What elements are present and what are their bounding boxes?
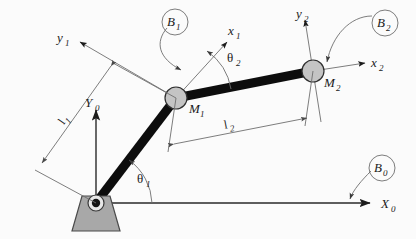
kinematic-diagram: X 0 Y 0 x 1 y 1 x 2 y 2 B 0 B 1 — [0, 0, 416, 239]
base-support — [72, 195, 120, 231]
label-l2: l 2 — [223, 116, 236, 135]
label-l1: l 1 — [55, 112, 74, 129]
diagram-canvas: X 0 Y 0 x 1 y 1 x 2 y 2 B 0 B 1 — [0, 0, 416, 239]
label-x2: x 2 — [370, 55, 384, 73]
b0-label-sub: 0 — [383, 168, 388, 178]
b2-label-sub: 2 — [386, 23, 391, 33]
b0-circle — [369, 155, 395, 181]
link-1-bar — [96, 98, 176, 203]
label-x0: X 0 — [380, 196, 396, 214]
label-theta1: θ 1 — [137, 171, 151, 189]
l1-ext-line-joint — [113, 63, 176, 98]
b2-label-main: B — [377, 15, 385, 30]
b2-circle — [372, 10, 398, 36]
b1-label-main: B — [167, 14, 175, 29]
x1-label-sub: 1 — [236, 31, 241, 41]
b0-label-main: B — [374, 160, 382, 175]
m2-label-sub: 2 — [336, 83, 341, 93]
theta2-label-main: θ — [227, 50, 233, 65]
l1-ext-line-base — [35, 170, 96, 203]
b0-leader-arc — [350, 171, 371, 199]
y1-label-sub: 1 — [65, 38, 70, 48]
x2-label-sub: 2 — [379, 63, 384, 73]
y2-label-sub: 2 — [304, 14, 309, 24]
theta1-label-sub: 1 — [146, 179, 151, 189]
label-y0: Y 0 — [85, 95, 100, 113]
y1-label-main: y — [55, 30, 63, 45]
theta2-label-sub: 2 — [236, 58, 241, 68]
x1-label-main: x — [227, 23, 234, 38]
body0-leader — [350, 155, 395, 199]
b2-leader-arc — [327, 16, 372, 62]
y0-label-main: Y — [85, 95, 94, 110]
x0-label-main: X — [380, 196, 390, 211]
theta1-label-main: θ — [137, 171, 143, 186]
label-y1: y 1 — [55, 30, 70, 48]
label-m2: M 2 — [323, 75, 341, 93]
body2-leader — [327, 10, 398, 62]
label-b1: B 1 — [167, 14, 181, 32]
label-x1: x 1 — [227, 23, 241, 41]
y2-label-main: y — [294, 6, 302, 21]
label-b0: B 0 — [374, 160, 388, 178]
label-m1: M 1 — [188, 101, 205, 119]
x2-label-main: x — [370, 55, 377, 70]
m2-label-main: M — [323, 75, 336, 90]
label-y2: y 2 — [294, 6, 309, 24]
label-b2: B 2 — [377, 15, 391, 33]
label-theta2: θ 2 — [227, 50, 241, 68]
x0-label-sub: 0 — [391, 204, 396, 214]
m1-label-sub: 1 — [200, 109, 205, 119]
l1-dim-line — [42, 66, 111, 163]
l2-dim-line — [174, 118, 307, 144]
y0-label-sub: 0 — [95, 103, 100, 113]
l2-label-sub: 2 — [229, 123, 236, 134]
b1-circle — [162, 9, 188, 35]
b1-label-sub: 1 — [176, 22, 181, 32]
